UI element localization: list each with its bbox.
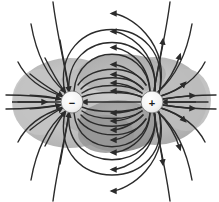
positive-charge-sign: +	[149, 97, 155, 109]
charge-negative[interactable]: −	[61, 91, 83, 113]
charge-positive[interactable]: +	[141, 91, 163, 113]
electric-dipole-diagram: − +	[0, 0, 219, 202]
negative-charge-sign: −	[69, 97, 75, 109]
figure-root: − +	[0, 0, 219, 202]
